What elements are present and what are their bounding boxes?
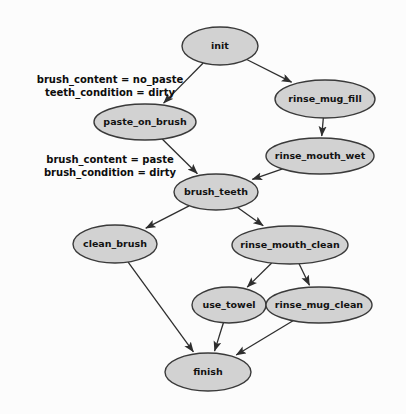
node-clean_brush[interactable]: clean_brush bbox=[73, 225, 157, 263]
edge-brush_teeth-to-clean_brush bbox=[146, 206, 189, 228]
diagram-canvas: initrinse_mug_fillpaste_on_brushrinse_mo… bbox=[0, 0, 406, 414]
label-init-paste_on_brush: brush_content = no_pasteteeth_condition … bbox=[37, 74, 184, 99]
node-finish[interactable]: finish bbox=[165, 353, 251, 391]
node-label-init: init bbox=[211, 40, 229, 51]
node-init[interactable]: init bbox=[182, 27, 258, 65]
label-paste_on_brush-brush_teeth-line-2: brush_condition = dirty bbox=[44, 167, 177, 179]
node-label-rinse_mouth_wet: rinse_mouth_wet bbox=[275, 150, 366, 161]
node-rinse_mouth_clean[interactable]: rinse_mouth_clean bbox=[232, 226, 348, 264]
node-label-rinse_mug_clean: rinse_mug_clean bbox=[275, 299, 364, 310]
node-rinse_mug_clean[interactable]: rinse_mug_clean bbox=[266, 287, 372, 323]
edge-clean_brush-to-finish bbox=[128, 262, 193, 352]
label-paste_on_brush-brush_teeth-line-1: brush_content = paste bbox=[46, 154, 174, 166]
node-label-clean_brush: clean_brush bbox=[83, 238, 147, 249]
node-label-rinse_mouth_clean: rinse_mouth_clean bbox=[240, 239, 340, 250]
label-init-paste_on_brush-line-2: teeth_condition = dirty bbox=[45, 87, 176, 99]
node-rinse_mug_fill[interactable]: rinse_mug_fill bbox=[275, 80, 375, 118]
edge-rinse_mug_clean-to-finish bbox=[236, 321, 293, 355]
node-paste_on_brush[interactable]: paste_on_brush bbox=[94, 104, 196, 140]
edge-rinse_mouth_clean-to-rinse_mug_clean bbox=[299, 264, 309, 286]
node-label-rinse_mug_fill: rinse_mug_fill bbox=[288, 93, 361, 104]
node-rinse_mouth_wet[interactable]: rinse_mouth_wet bbox=[266, 138, 374, 174]
edge-rinse_mouth_wet-to-brush_teeth bbox=[252, 169, 282, 179]
edge-rinse_mug_fill-to-rinse_mouth_wet bbox=[322, 118, 324, 136]
edge-use_towel-to-finish bbox=[215, 323, 224, 351]
node-label-brush_teeth: brush_teeth bbox=[184, 186, 248, 197]
node-brush_teeth[interactable]: brush_teeth bbox=[174, 174, 258, 210]
edge-rinse_mouth_clean-to-use_towel bbox=[247, 263, 271, 287]
node-label-paste_on_brush: paste_on_brush bbox=[103, 116, 187, 127]
node-label-finish: finish bbox=[193, 366, 223, 377]
node-label-use_towel: use_towel bbox=[202, 299, 255, 310]
edge-brush_teeth-to-rinse_mouth_clean bbox=[238, 207, 264, 225]
label-init-paste_on_brush-line-1: brush_content = no_paste bbox=[37, 74, 184, 86]
edge-init-to-rinse_mug_fill bbox=[247, 60, 292, 83]
node-use_towel[interactable]: use_towel bbox=[192, 287, 266, 323]
label-paste_on_brush-brush_teeth: brush_content = pastebrush_condition = d… bbox=[44, 154, 177, 179]
graph-svg: initrinse_mug_fillpaste_on_brushrinse_mo… bbox=[0, 0, 406, 414]
